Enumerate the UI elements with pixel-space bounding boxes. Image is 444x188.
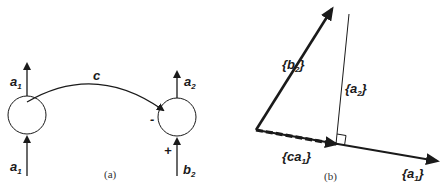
panel-a: a1 a1 c a2 b2 - + (a) [8, 64, 196, 181]
connection-arc-c [27, 84, 163, 110]
label-a2: {a2} [345, 81, 367, 98]
panel-b: {b2} {a2} {ca1} {a1} (b) [256, 9, 437, 183]
left-input-label: a1 [10, 159, 22, 176]
right-node-circle [158, 98, 196, 136]
figure-canvas: a1 a1 c a2 b2 - + (a) {b2 [0, 0, 444, 188]
vector-a2 [336, 14, 349, 144]
caption-b: (b) [324, 170, 337, 183]
inhibitory-sign: - [150, 112, 154, 127]
label-b2: {b2} [282, 57, 305, 74]
left-output-label: a1 [10, 74, 22, 91]
caption-a: (a) [104, 168, 117, 181]
right-input-label: b2 [183, 162, 196, 179]
arc-label-c: c [93, 68, 101, 83]
label-a1: {a1} [402, 166, 424, 183]
label-ca1: {ca1} [282, 149, 311, 166]
right-output-label: a2 [184, 74, 196, 91]
excitatory-sign: + [164, 143, 172, 158]
